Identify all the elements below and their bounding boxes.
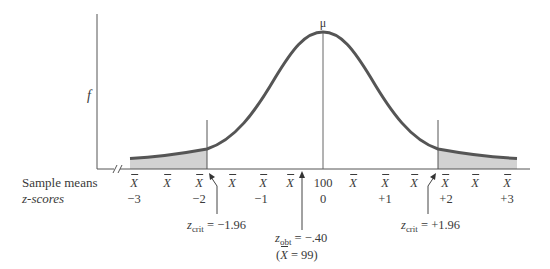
z-tick-neg2: −2 [192,193,205,206]
z-tick-neg1: −1 [254,193,267,206]
xbar-tick: X [441,177,449,190]
xbar-tick: X [130,177,138,190]
xbar-obt-label: (X = 99) [276,249,318,262]
xbar-tick: X [163,177,171,190]
zcrit-right-arrow [428,173,436,214]
xbar-tick: X [259,177,267,190]
zcrit-left-sub: crit [192,224,204,234]
zcrit-right-value: = +1.96 [418,218,460,232]
distribution-plot [0,0,550,269]
zcrit-left-value: = −1.96 [204,218,246,232]
mu-label: μ [320,17,326,29]
xbar-tick: X [349,177,357,190]
y-axis-label: f [87,89,91,103]
z-tick-0: 0 [320,193,326,206]
z-tick-pos3: +3 [500,193,513,206]
zcrit-left-arrow [209,173,217,214]
xbar-tick: X [471,177,479,190]
xbar-tick: X [286,177,294,190]
xbar-tick: X [228,177,236,190]
zobt-arrow [299,171,305,230]
zcrit-left-label: zcrit = −1.96 [187,219,246,232]
zobt-value: = −.40 [291,231,327,245]
zcrit-right-sub: crit [406,224,418,234]
xbar-obt-symbol: X [280,248,288,262]
z-tick-pos2: +2 [439,193,452,206]
xbar-tick: X [503,177,511,190]
z-scores-label: z-scores [22,192,64,205]
zcrit-right-label: zcrit = +1.96 [401,219,460,232]
z-tick-pos1: +1 [378,193,391,206]
xbar-obt-value: = 99) [288,248,318,262]
z-tick-neg3: −3 [127,193,140,206]
sampling-distribution-diagram: f μ Sample means z-scores X X X X X X 10… [0,0,550,269]
xbar-tick: X [381,177,389,190]
mean-value-tick: 100 [314,177,333,190]
zobt-label: zobt = −.40 [275,232,327,245]
sample-means-label: Sample means [22,176,97,189]
xbar-tick: X [195,177,203,190]
xbar-tick: X [410,177,418,190]
